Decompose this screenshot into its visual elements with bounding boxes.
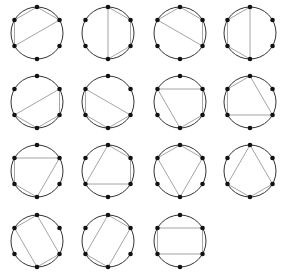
vertex-dot bbox=[83, 113, 88, 118]
vertex-dot bbox=[155, 18, 160, 23]
vertex-dot bbox=[35, 265, 40, 270]
vertex-dot bbox=[155, 87, 160, 92]
vertex-dot bbox=[106, 57, 111, 62]
vertex-dot bbox=[225, 182, 230, 187]
vertex-dot bbox=[178, 143, 183, 148]
circle-outline bbox=[224, 76, 276, 128]
vertex-dot bbox=[200, 252, 205, 257]
vertex-dot bbox=[57, 226, 62, 231]
quadrilateral-edge bbox=[108, 145, 131, 158]
quadrilateral-edge bbox=[37, 254, 60, 267]
vertex-dot bbox=[12, 252, 17, 257]
vertex-dot bbox=[248, 126, 253, 131]
quadrilateral-edge bbox=[180, 145, 203, 158]
vertex-dot bbox=[155, 113, 160, 118]
quadrilateral-edge bbox=[157, 20, 202, 46]
vertex-dot bbox=[128, 252, 133, 257]
vertex-dot bbox=[270, 156, 275, 161]
quadrilateral-edge bbox=[37, 215, 60, 254]
circle-outline bbox=[224, 145, 276, 197]
vertex-dot bbox=[83, 252, 88, 257]
vertex-dot bbox=[12, 18, 17, 23]
quadrilateral-edge bbox=[180, 7, 203, 20]
vertex-dot bbox=[12, 87, 17, 92]
vertex-dot bbox=[106, 5, 111, 10]
figure-9 bbox=[11, 143, 63, 200]
quadrilateral-edge bbox=[227, 7, 250, 20]
figure-11 bbox=[154, 143, 206, 200]
figure-7 bbox=[154, 74, 206, 131]
vertex-dot bbox=[155, 44, 160, 49]
vertex-dot bbox=[35, 195, 40, 200]
figure-15 bbox=[154, 213, 206, 270]
vertex-dot bbox=[248, 74, 253, 79]
quadrilateral-edge bbox=[157, 145, 180, 158]
quadrilateral-edge bbox=[108, 115, 131, 128]
vertex-dot bbox=[200, 156, 205, 161]
vertex-dot bbox=[128, 87, 133, 92]
quadrilateral-edge bbox=[108, 228, 131, 267]
vertex-dot bbox=[12, 182, 17, 187]
vertex-dot bbox=[106, 213, 111, 218]
quadrilateral-edge bbox=[14, 184, 37, 197]
vertex-dot bbox=[35, 74, 40, 79]
vertex-dot bbox=[83, 156, 88, 161]
quadrilateral-edge bbox=[37, 7, 60, 20]
vertex-dot bbox=[57, 44, 62, 49]
quadrilateral-edge bbox=[157, 89, 180, 128]
circle-outline bbox=[11, 145, 63, 197]
quadrilateral-edge bbox=[227, 46, 250, 59]
vertex-dot bbox=[248, 57, 253, 62]
vertex-dot bbox=[57, 252, 62, 257]
figure-5 bbox=[11, 74, 63, 131]
vertex-dot bbox=[128, 156, 133, 161]
vertex-dot bbox=[178, 195, 183, 200]
quadrilateral-edge bbox=[14, 228, 37, 267]
vertex-dot bbox=[106, 126, 111, 131]
vertex-dot bbox=[178, 57, 183, 62]
vertex-dot bbox=[178, 5, 183, 10]
vertex-dot bbox=[155, 156, 160, 161]
vertex-dot bbox=[83, 87, 88, 92]
circle-outline bbox=[154, 215, 206, 267]
vertex-dot bbox=[270, 182, 275, 187]
quadrilateral-edge bbox=[14, 20, 59, 46]
figure-14 bbox=[82, 213, 134, 270]
vertex-dot bbox=[35, 57, 40, 62]
vertex-dot bbox=[106, 265, 111, 270]
quadrilateral-edge bbox=[108, 7, 131, 20]
vertex-dot bbox=[225, 18, 230, 23]
vertex-dot bbox=[128, 113, 133, 118]
quadrilateral-edge bbox=[14, 89, 59, 115]
figure-8 bbox=[224, 74, 276, 131]
figure-4 bbox=[224, 5, 276, 62]
vertex-dot bbox=[200, 182, 205, 187]
vertex-dot bbox=[106, 143, 111, 148]
figure-1 bbox=[11, 5, 63, 62]
quadrilateral-diagram bbox=[0, 0, 287, 278]
vertex-dot bbox=[57, 182, 62, 187]
quadrilateral-edge bbox=[180, 115, 203, 128]
circle-outline bbox=[82, 145, 134, 197]
vertex-dot bbox=[155, 226, 160, 231]
vertex-dot bbox=[35, 213, 40, 218]
vertex-dot bbox=[225, 44, 230, 49]
vertex-dot bbox=[155, 182, 160, 187]
vertex-dot bbox=[200, 113, 205, 118]
vertex-dot bbox=[178, 213, 183, 218]
figure-10 bbox=[82, 143, 134, 200]
quadrilateral-edge bbox=[85, 215, 108, 254]
quadrilateral-edge bbox=[108, 215, 131, 228]
vertex-dot bbox=[57, 156, 62, 161]
vertex-dot bbox=[270, 113, 275, 118]
vertex-dot bbox=[35, 143, 40, 148]
quadrilateral-edge bbox=[227, 76, 250, 89]
figure-6 bbox=[82, 74, 134, 131]
quadrilateral-edge bbox=[14, 7, 37, 20]
quadrilateral-edge bbox=[85, 89, 130, 115]
vertex-dot bbox=[225, 156, 230, 161]
vertex-dot bbox=[106, 74, 111, 79]
figure-3 bbox=[154, 5, 206, 62]
circle-outline bbox=[82, 215, 134, 267]
vertex-dot bbox=[35, 5, 40, 10]
